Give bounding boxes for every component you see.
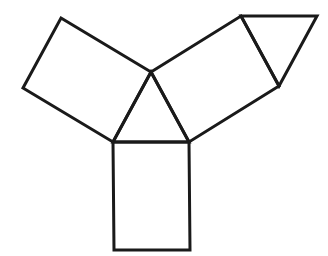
geometric-net-diagram [0,0,328,256]
